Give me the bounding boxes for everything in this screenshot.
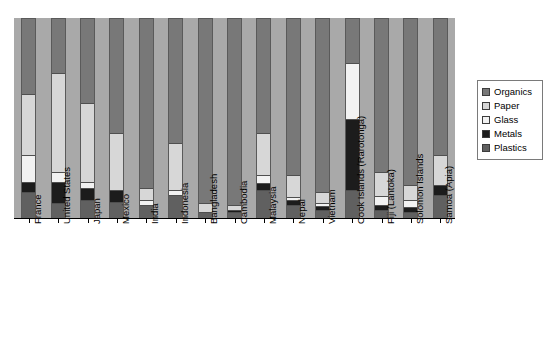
legend-swatch-icon [482, 144, 490, 152]
legend-item-plastics[interactable]: Plastics [482, 141, 538, 154]
x-axis-label: United States [62, 167, 72, 224]
x-axis-tick [146, 219, 147, 223]
legend-label: Glass [494, 115, 518, 125]
bar-segment-organics [287, 19, 300, 175]
legend-swatch-icon [482, 88, 490, 96]
bar-segment-metals [22, 182, 35, 192]
x-axis-label: Bangladesh [209, 174, 219, 224]
legend-swatch-icon [482, 116, 490, 124]
legend-label: Plastics [494, 143, 527, 153]
x-axis-tick [323, 219, 324, 223]
bar-segment-organics [169, 19, 182, 143]
bar-segment-glass [22, 155, 35, 182]
bar-segment-glass [346, 63, 359, 119]
x-axis-tick [117, 219, 118, 223]
bar-segment-organics [257, 19, 270, 133]
bar-segment-organics [140, 19, 153, 188]
legend-item-paper[interactable]: Paper [482, 99, 538, 112]
bar-segment-organics [346, 19, 359, 63]
x-axis-tick [293, 219, 294, 223]
bar-segment-paper [110, 133, 123, 190]
x-axis-label: Solomon Islands [415, 154, 425, 224]
legend-items: OrganicsPaperGlassMetalsPlastics [482, 85, 538, 154]
waste-composition-chart: FranceUnited StatesJapanMexicoIndiaIndon… [0, 0, 552, 359]
x-axis-tick [176, 219, 177, 223]
x-axis-label: Samoa (Apia) [444, 166, 454, 224]
bar-segment-paper [287, 175, 300, 197]
x-axis-label: Cambodia [239, 181, 249, 224]
legend-item-organics[interactable]: Organics [482, 85, 538, 98]
legend-item-metals[interactable]: Metals [482, 127, 538, 140]
x-axis-label: Malaysia [268, 187, 278, 225]
bar-nepal [286, 18, 301, 218]
bar-segment-organics [110, 19, 123, 133]
x-axis-tick [205, 219, 206, 223]
bar-segment-paper [257, 133, 270, 175]
bar-segment-paper [52, 73, 65, 173]
bar-segment-paper [140, 188, 153, 200]
x-axis-label: Japan [92, 198, 102, 224]
bar-vietnam [315, 18, 330, 218]
chart-legend: OrganicsPaperGlassMetalsPlastics [477, 80, 543, 160]
x-axis-label: India [150, 203, 160, 224]
legend-label: Organics [494, 87, 532, 97]
bar-segment-organics [52, 19, 65, 73]
x-axis-label: Fiji (Lantoka) [386, 169, 396, 224]
bar-segment-organics [228, 19, 241, 205]
bar-india [139, 18, 154, 218]
bar-segment-organics [22, 19, 35, 94]
x-axis-tick [264, 219, 265, 223]
bar-segment-glass [257, 175, 270, 183]
x-axis-label: Vietnam [327, 189, 337, 224]
legend-swatch-icon [482, 102, 490, 110]
bar-mexico [109, 18, 124, 218]
x-axis-tick [352, 219, 353, 223]
bar-japan [80, 18, 95, 218]
legend-swatch-icon [482, 130, 490, 138]
x-axis-tick [440, 219, 441, 223]
x-axis-tick [382, 219, 383, 223]
x-axis-tick [58, 219, 59, 223]
legend-label: Paper [494, 101, 519, 111]
x-axis-labels: FranceUnited StatesJapanMexicoIndiaIndon… [0, 224, 552, 354]
legend-item-glass[interactable]: Glass [482, 113, 538, 126]
bar-segment-paper [81, 103, 94, 183]
x-axis-tick [29, 219, 30, 223]
x-axis-label: Mexico [121, 194, 131, 224]
x-axis-tick [235, 219, 236, 223]
x-axis-label: Nepal [297, 199, 307, 224]
x-axis-tick [411, 219, 412, 223]
bar-segment-organics [375, 19, 388, 172]
x-axis-label: Indonesia [180, 183, 190, 224]
x-axis-tick [88, 219, 89, 223]
bar-segment-organics [81, 19, 94, 103]
x-axis-label: France [33, 194, 43, 224]
legend-label: Metals [494, 129, 522, 139]
bar-segment-organics [316, 19, 329, 192]
bar-segment-organics [434, 19, 447, 155]
bar-france [21, 18, 36, 218]
x-axis-label: Cook Islands (Rarotonga) [356, 116, 366, 224]
bar-segment-paper [22, 94, 35, 156]
